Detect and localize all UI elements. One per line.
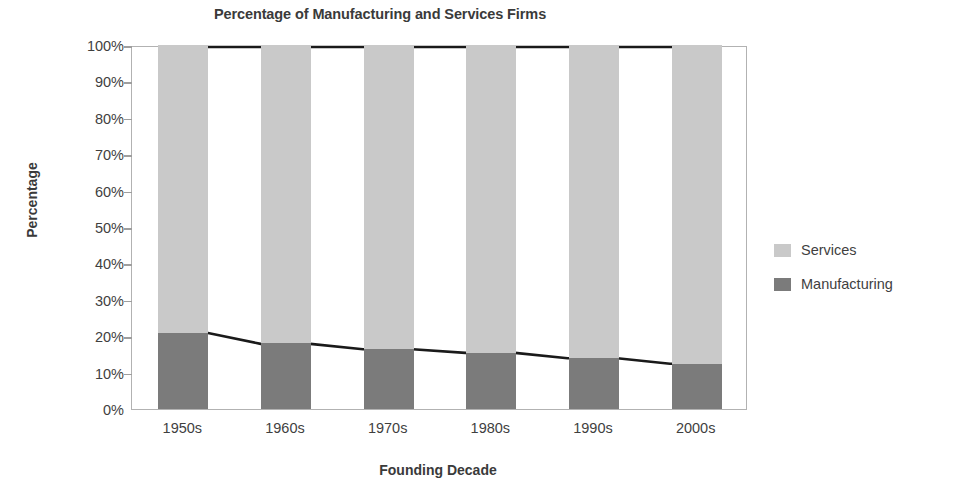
legend-item[interactable]: Manufacturing [774,267,949,301]
bar-column[interactable] [158,45,208,409]
chart-legend: ServicesManufacturing [774,233,949,301]
bar-segment-manufacturing[interactable] [569,358,619,409]
bar-segment-services[interactable] [158,45,208,333]
y-axis-tick-mark [124,264,132,266]
bar-segment-services[interactable] [672,45,722,364]
x-axis-tick-label: 1980s [440,420,540,436]
y-axis-tick-mark [124,46,132,48]
bar-column[interactable] [569,45,619,409]
bar-column[interactable] [364,45,414,409]
chart-container: Percentage of Manufacturing and Services… [0,0,955,498]
x-axis-tick-label: 1990s [543,420,643,436]
y-axis-tick-label: 30% [40,293,124,309]
x-axis-tick-label: 1960s [235,420,335,436]
bar-segment-services[interactable] [569,45,619,358]
y-axis-tick-mark [124,337,132,339]
line-overlay-layer [132,47,746,409]
y-axis-tick-label: 90% [40,74,124,90]
y-axis-tick-label: 20% [40,329,124,345]
y-axis-tick-mark [124,82,132,84]
bar-segment-services[interactable] [364,45,414,349]
y-axis-tick-mark [124,155,132,157]
legend-label: Services [801,242,857,258]
y-axis-tick-mark [124,301,132,303]
manufacturing-top-line [158,333,720,364]
bar-segment-manufacturing[interactable] [672,364,722,410]
x-axis-tick-label: 1950s [132,420,232,436]
x-axis-title: Founding Decade [128,462,748,478]
y-axis-tick-label: 10% [40,366,124,382]
legend-label: Manufacturing [801,276,893,292]
y-axis-tick-mark [124,119,132,121]
y-axis-tick-label: 40% [40,256,124,272]
bar-segment-manufacturing[interactable] [466,353,516,409]
legend-swatch-icon [774,278,791,291]
y-axis-tick-label: 60% [40,184,124,200]
y-axis-tick-mark [124,192,132,194]
x-axis-tick-label: 1970s [338,420,438,436]
bar-column[interactable] [672,45,722,409]
legend-item[interactable]: Services [774,233,949,267]
y-axis-tick-label: 100% [40,38,124,54]
bar-segment-services[interactable] [466,45,516,353]
plot-area [131,46,747,410]
bar-segment-manufacturing[interactable] [364,349,414,409]
y-axis-tick-label: 70% [40,147,124,163]
bar-column[interactable] [466,45,516,409]
chart-title: Percentage of Manufacturing and Services… [0,6,760,22]
y-axis-tick-labels: 0%10%20%30%40%50%60%70%80%90%100% [36,46,124,410]
y-axis-tick-mark [124,228,132,230]
legend-swatch-icon [774,244,791,257]
y-axis-tick-label: 80% [40,111,124,127]
bar-segment-manufacturing[interactable] [261,343,311,409]
x-axis-tick-label: 2000s [646,420,746,436]
y-axis-tick-label: 50% [40,220,124,236]
y-axis-tick-mark [124,374,132,376]
bar-segment-manufacturing[interactable] [158,333,208,409]
y-axis-tick-label: 0% [40,402,124,418]
plot-inner [132,47,746,409]
bar-column[interactable] [261,45,311,409]
bar-segment-services[interactable] [261,45,311,343]
